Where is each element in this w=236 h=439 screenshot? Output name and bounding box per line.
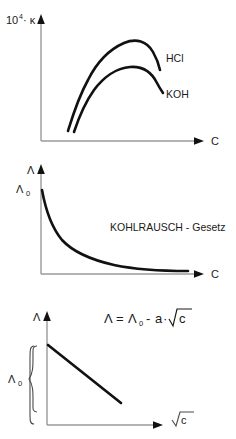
equation-minus: - xyxy=(146,311,150,326)
kohlrausch-annotation: KOHLRAUSCH - Gesetz xyxy=(110,221,226,233)
y-axis-label-base: 10 xyxy=(6,14,18,26)
conductivity-chart-canvas: 10 4 · κ C HCl KOH xyxy=(0,0,236,150)
brace-label-subscript: 0 xyxy=(18,379,22,388)
y-axis-label: Λ xyxy=(27,164,35,176)
y-intercept-label-subscript: 0 xyxy=(26,189,30,198)
y-axis-label: Λ xyxy=(33,311,41,323)
equation-lhs: Λ xyxy=(104,311,113,326)
y-axis-label-symbol: · κ xyxy=(23,14,36,26)
x-axis-arrowhead xyxy=(153,421,163,429)
series-curve-koh xyxy=(74,67,163,132)
y-axis-arrowhead xyxy=(43,311,51,321)
equation-slope: a xyxy=(155,311,163,326)
equation-dot: · xyxy=(163,311,167,326)
chart-conductivity-vs-concentration: 10 4 · κ C HCl KOH xyxy=(0,0,236,150)
series-label-koh: KOH xyxy=(166,88,189,100)
series-label-hcl: HCl xyxy=(166,52,184,64)
y-intercept-label-base: Λ xyxy=(16,183,24,195)
kohlrausch-chart-canvas: Λ Λ 0 C KOHLRAUSCH - Gesetz xyxy=(0,150,236,295)
y-axis-arrowhead xyxy=(37,164,45,174)
linearized-chart-canvas: Λ Λ 0 c Λ = Λ 0 - a · c xyxy=(0,295,236,439)
series-curve-hcl xyxy=(68,41,160,131)
chart-kohlrausch-law: Λ Λ 0 C KOHLRAUSCH - Gesetz xyxy=(0,150,236,295)
equation-equals: = xyxy=(116,311,124,326)
x-axis-label-radicand: c xyxy=(181,414,187,426)
equation-intercept-base: Λ xyxy=(128,311,137,326)
brace-label-base: Λ xyxy=(8,373,16,385)
linearized-equation: Λ = Λ 0 - a · c xyxy=(104,309,192,328)
chart-kohlrausch-linearized: Λ Λ 0 c Λ = Λ 0 - a · c xyxy=(0,295,236,439)
x-axis-label-sqrt-c: c xyxy=(172,412,194,426)
series-line-lambda-sqrtc xyxy=(48,345,121,403)
x-axis-label: C xyxy=(211,268,219,280)
y-axis-arrowhead xyxy=(37,14,45,24)
equation-radicand: c xyxy=(179,311,186,326)
x-axis-label: C xyxy=(211,135,219,147)
x-axis-arrowhead xyxy=(194,270,204,278)
equation-intercept-subscript: 0 xyxy=(139,319,143,328)
x-axis-arrowhead xyxy=(194,137,204,145)
